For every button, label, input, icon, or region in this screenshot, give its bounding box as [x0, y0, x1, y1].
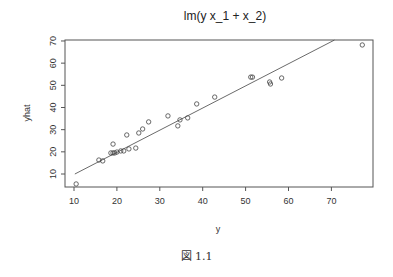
- data-point: [125, 133, 129, 137]
- data-point: [360, 43, 364, 47]
- data-point: [146, 120, 150, 124]
- y-tick-label: 50: [48, 80, 58, 90]
- x-tick-label: 40: [198, 196, 208, 206]
- data-point: [166, 114, 170, 118]
- data-point: [134, 146, 138, 150]
- x-tick-label: 60: [283, 196, 293, 206]
- data-point: [140, 127, 144, 131]
- data-point: [127, 147, 131, 151]
- y-tick-label: 10: [48, 169, 58, 179]
- chart-title: lm(y x_1 + x_2): [184, 9, 266, 23]
- y-axis: 10203040506070: [48, 36, 65, 179]
- y-tick-label: 40: [48, 102, 58, 112]
- scatter-chart: lm(y x_1 + x_2) 10203040506070 102030405…: [0, 0, 393, 245]
- plot-frame: [65, 40, 373, 187]
- x-tick-label: 10: [69, 196, 79, 206]
- y-tick-label: 30: [48, 125, 58, 135]
- data-point: [194, 102, 198, 106]
- data-point: [111, 142, 115, 146]
- data-point: [279, 76, 283, 80]
- y-tick-label: 70: [48, 36, 58, 46]
- y-axis-label: yhat: [22, 104, 32, 122]
- data-point: [74, 182, 78, 186]
- x-tick-label: 50: [241, 196, 251, 206]
- figure-caption: 図 1.1: [0, 247, 393, 263]
- x-axis: 10203040506070: [69, 187, 336, 206]
- data-point: [185, 116, 189, 120]
- data-point: [213, 95, 217, 99]
- regression-line: [75, 40, 335, 174]
- data-points: [74, 43, 365, 186]
- data-point: [176, 124, 180, 128]
- x-axis-label: y: [216, 224, 221, 234]
- y-tick-label: 60: [48, 58, 58, 68]
- data-point: [122, 149, 126, 153]
- y-tick-label: 20: [48, 147, 58, 157]
- x-tick-label: 30: [155, 196, 165, 206]
- x-tick-label: 70: [326, 196, 336, 206]
- data-point: [137, 131, 141, 135]
- x-tick-label: 20: [112, 196, 122, 206]
